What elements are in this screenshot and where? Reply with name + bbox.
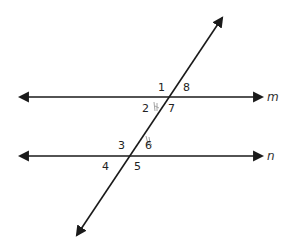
angle-label-3: 3 bbox=[118, 139, 125, 152]
pencil-mark-angle-2 bbox=[154, 102, 159, 111]
line-m-label: m bbox=[267, 90, 279, 104]
line-n-label: n bbox=[267, 149, 275, 163]
angle-label-1: 1 bbox=[158, 81, 165, 94]
diagram-canvas: m n 1 8 2 7 3 6 4 5 bbox=[0, 0, 288, 250]
angle-label-2: 2 bbox=[142, 102, 149, 115]
angle-label-6: 6 bbox=[145, 139, 152, 152]
angle-label-4: 4 bbox=[102, 160, 109, 173]
angle-label-7: 7 bbox=[168, 102, 175, 115]
angle-label-5: 5 bbox=[134, 160, 141, 173]
angle-label-8: 8 bbox=[183, 81, 190, 94]
transversal bbox=[77, 18, 222, 235]
